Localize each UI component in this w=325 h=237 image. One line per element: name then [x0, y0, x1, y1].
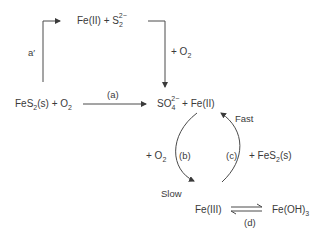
fe3-label: Fe(III)	[195, 204, 222, 215]
slow-label: Slow	[161, 188, 182, 199]
cycle-right-reagent: + FeS2(s)	[249, 150, 292, 163]
product-label: SO42− + Fe(II)	[157, 95, 215, 111]
top-right-reagent: + O2	[171, 46, 191, 59]
path-a-label: (a)	[107, 89, 119, 100]
path-d-label: (d)	[244, 217, 256, 228]
path-c-label: (c)	[226, 150, 237, 161]
top-species-label: Fe(II) + S22−	[77, 12, 127, 28]
reactant-label: FeS2(s) + O2	[15, 98, 72, 111]
equilibrium-reverse-arrow	[231, 211, 262, 214]
equilibrium-forward-arrow	[231, 204, 262, 207]
fast-label: Fast	[235, 113, 254, 124]
cycle-left-reagent: + O2	[146, 150, 166, 163]
path-b-label: (b)	[179, 150, 191, 161]
pyrite-oxidation-diagram: Fe(II) + S22− a′ + O2 FeS2(s) + O2 (a) S…	[0, 0, 325, 237]
path-a-prime-arrow	[43, 21, 60, 82]
path-a-prime-label: a′	[28, 47, 35, 58]
hydroxide-label: Fe(OH)3	[272, 204, 309, 217]
top-to-product-arrow	[148, 21, 165, 87]
cycle-arrow-b	[176, 113, 197, 181]
